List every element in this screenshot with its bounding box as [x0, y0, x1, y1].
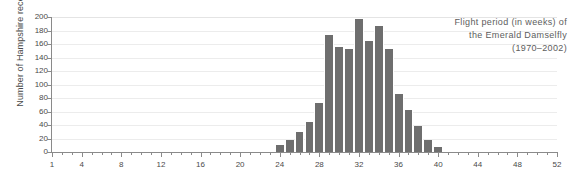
x-tick-mark-minor — [458, 153, 459, 155]
x-tick-mark-minor — [111, 153, 112, 155]
y-tick-label: 60 — [22, 108, 48, 116]
y-tick-mark — [47, 31, 51, 32]
x-tick-mark-minor — [339, 153, 340, 155]
x-tick-mark-minor — [260, 153, 261, 155]
y-tick-mark — [47, 44, 51, 45]
chart-title: Flight period (in weeks) of the Emerald … — [455, 16, 568, 55]
x-tick-mark-minor — [369, 153, 370, 155]
x-axis-line — [51, 152, 558, 153]
x-tick-mark-minor — [220, 153, 221, 155]
bar — [354, 19, 364, 152]
bar — [314, 103, 324, 152]
bar — [364, 41, 374, 152]
y-tick-mark — [47, 112, 51, 113]
y-tick-label: 120 — [22, 67, 48, 75]
x-tick-mark-minor — [498, 153, 499, 155]
x-tick-mark-minor — [309, 153, 310, 155]
x-tick-label: 24 — [270, 160, 290, 169]
x-tick-mark-minor — [389, 153, 390, 155]
x-tick-mark-minor — [131, 153, 132, 155]
x-tick-mark-major — [399, 153, 400, 157]
y-tick-label: 20 — [22, 135, 48, 143]
y-tick-mark — [47, 85, 51, 86]
bar — [433, 147, 443, 152]
bar — [404, 110, 414, 152]
chart-title-line-2: the Emerald Damselfly — [455, 29, 568, 42]
x-tick-mark-major — [359, 153, 360, 157]
x-tick-label: 52 — [547, 160, 567, 169]
y-tick-label: 0 — [22, 148, 48, 156]
x-tick-mark-major — [319, 153, 320, 157]
x-tick-label: 4 — [72, 160, 92, 169]
x-tick-mark-minor — [300, 153, 301, 155]
flight-period-histogram: Number of Hampshire records 020406080100… — [0, 0, 581, 181]
chart-title-line-1: Flight period (in weeks) of — [455, 16, 568, 29]
bar — [324, 35, 334, 152]
y-tick-label: 100 — [22, 81, 48, 89]
x-tick-mark-major — [517, 153, 518, 157]
x-tick-mark-minor — [250, 153, 251, 155]
x-tick-mark-minor — [230, 153, 231, 155]
x-tick-label: 8 — [111, 160, 131, 169]
x-tick-label: 32 — [349, 160, 369, 169]
x-tick-mark-minor — [92, 153, 93, 155]
y-tick-label: 140 — [22, 54, 48, 62]
x-tick-mark-minor — [488, 153, 489, 155]
x-tick-mark-minor — [191, 153, 192, 155]
bar — [374, 26, 384, 152]
bar — [423, 140, 433, 152]
y-tick-mark — [47, 125, 51, 126]
x-tick-mark-minor — [181, 153, 182, 155]
bar — [285, 140, 295, 152]
x-tick-mark-major — [82, 153, 83, 157]
x-tick-mark-minor — [448, 153, 449, 155]
x-tick-mark-minor — [428, 153, 429, 155]
x-tick-mark-major — [280, 153, 281, 157]
x-tick-mark-minor — [151, 153, 152, 155]
x-tick-mark-major — [557, 153, 558, 157]
x-tick-mark-minor — [141, 153, 142, 155]
x-tick-mark-minor — [418, 153, 419, 155]
x-tick-mark-major — [438, 153, 439, 157]
y-tick-mark — [47, 58, 51, 59]
y-tick-label: 40 — [22, 121, 48, 129]
x-tick-mark-minor — [171, 153, 172, 155]
x-tick-mark-minor — [210, 153, 211, 155]
chart-title-line-3: (1970–2002) — [455, 42, 568, 55]
bar — [413, 126, 423, 152]
y-tick-label: 200 — [22, 13, 48, 21]
bar — [295, 132, 305, 152]
bar — [344, 49, 354, 152]
x-tick-mark-minor — [408, 153, 409, 155]
y-tick-mark — [47, 71, 51, 72]
x-tick-mark-minor — [537, 153, 538, 155]
x-tick-mark-major — [161, 153, 162, 157]
y-tick-label: 80 — [22, 94, 48, 102]
y-tick-label: 160 — [22, 40, 48, 48]
x-tick-mark-major — [478, 153, 479, 157]
x-tick-label: 36 — [389, 160, 409, 169]
x-tick-label: 44 — [468, 160, 488, 169]
y-tick-label: 180 — [22, 27, 48, 35]
x-tick-label: 40 — [428, 160, 448, 169]
x-tick-mark-minor — [349, 153, 350, 155]
x-tick-mark-major — [52, 153, 53, 157]
x-tick-mark-major — [201, 153, 202, 157]
x-tick-label: 1 — [42, 160, 62, 169]
x-tick-mark-minor — [527, 153, 528, 155]
y-tick-mark — [47, 98, 51, 99]
x-tick-mark-minor — [72, 153, 73, 155]
bar — [305, 122, 315, 152]
x-tick-mark-minor — [379, 153, 380, 155]
x-tick-label: 28 — [309, 160, 329, 169]
x-tick-mark-minor — [62, 153, 63, 155]
x-tick-mark-major — [121, 153, 122, 157]
bar — [394, 94, 404, 152]
x-tick-label: 12 — [151, 160, 171, 169]
x-tick-mark-minor — [507, 153, 508, 155]
bar — [384, 49, 394, 152]
x-tick-mark-minor — [270, 153, 271, 155]
y-tick-mark — [47, 139, 51, 140]
x-tick-label: 16 — [191, 160, 211, 169]
y-tick-mark — [47, 152, 51, 153]
